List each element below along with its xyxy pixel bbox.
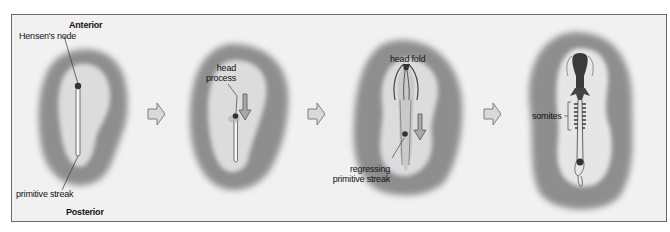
stage-arrow-right-icon xyxy=(148,103,165,125)
stage-arrow-right-icon xyxy=(484,103,501,125)
anterior-label: Anterior xyxy=(69,20,102,30)
primitive-streak-label: primitive streak xyxy=(16,189,73,199)
stage-arrow-right-icon xyxy=(308,103,325,125)
hensens-node-label: Hensen's node xyxy=(19,31,76,41)
head-process-label-line2: process xyxy=(200,73,236,83)
somites-label: somites xyxy=(532,111,562,121)
posterior-label: Posterior xyxy=(66,207,104,217)
embryo-diagram xyxy=(0,0,670,232)
embryo-stage-1 xyxy=(39,36,128,190)
head-process-label-line1: head xyxy=(200,63,236,73)
regressing-label-line1: regressing xyxy=(320,164,390,174)
regressing-label-line2: primitive streak xyxy=(300,174,390,184)
head-fold-label: head fold xyxy=(390,54,425,64)
